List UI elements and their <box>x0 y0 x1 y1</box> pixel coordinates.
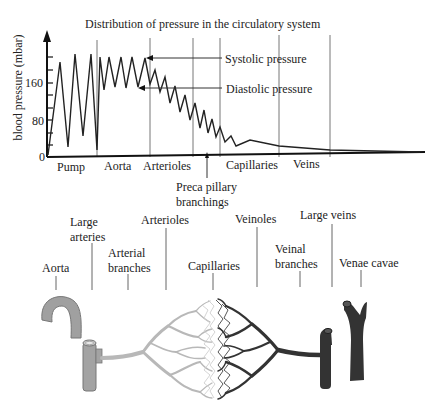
venous-tree-icon <box>218 299 320 399</box>
aortic-arch-icon <box>42 297 81 338</box>
arterial-tree-icon <box>102 301 212 398</box>
label-leader-lines <box>56 224 361 290</box>
venae-cavae-icon <box>343 301 367 381</box>
vessel-diagram-svg <box>0 0 427 408</box>
large-vein-icon <box>320 328 332 389</box>
large-artery-icon <box>83 340 102 391</box>
capillary-mesh-icon <box>202 300 230 398</box>
